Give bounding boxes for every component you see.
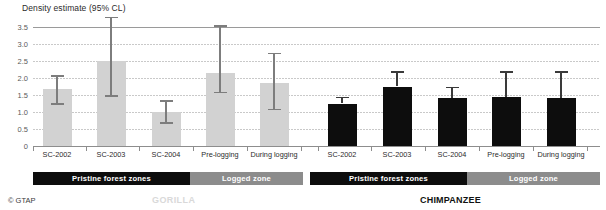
errorbar-line-8 bbox=[505, 71, 507, 97]
xtick-label-6: SC-2003 bbox=[367, 150, 427, 159]
errorbar-cap-low-0 bbox=[51, 103, 64, 105]
band-chimpanzee-logged: Logged zone bbox=[467, 172, 600, 185]
x-axis-line bbox=[33, 146, 600, 147]
copyright-label: © GTAP bbox=[8, 196, 35, 205]
errorbar-line-6 bbox=[396, 71, 398, 86]
errorbar-cap-high-5 bbox=[336, 97, 349, 99]
xtick-label-5: SC-2002 bbox=[312, 150, 372, 159]
errorbar-cap-high-0 bbox=[51, 75, 64, 77]
errorbar-cap-high-6 bbox=[391, 71, 404, 73]
bar-chimpanzee-pre-logging bbox=[492, 97, 521, 146]
bar-chimpanzee-sc-2004 bbox=[438, 98, 467, 146]
errorbar-cap-low-1 bbox=[105, 95, 118, 97]
xtick-label-2: SC-2004 bbox=[136, 150, 196, 159]
gorilla-group-label: GORILLA bbox=[152, 195, 195, 205]
errorbar-line-0 bbox=[56, 75, 58, 103]
band-chimpanzee-pristine: Pristine forest zones bbox=[310, 172, 467, 185]
gridline-3-5 bbox=[33, 27, 600, 28]
bar-chimpanzee-sc-2002 bbox=[328, 104, 357, 147]
ytick-label-0-5: 0.5 bbox=[0, 125, 28, 134]
errorbar-line-1 bbox=[110, 17, 112, 95]
xtick-label-4: During logging bbox=[244, 150, 304, 159]
gridline-3-0 bbox=[33, 44, 600, 45]
errorbar-cap-high-3 bbox=[214, 25, 227, 27]
ytick-label-1-5: 1.5 bbox=[0, 91, 28, 100]
xtick-label-7: SC-2004 bbox=[422, 150, 482, 159]
xtick-label-3: Pre-logging bbox=[190, 150, 250, 159]
density-estimate-chart: Density estimate (95% CL) 3.5 3.0 2.5 2.… bbox=[0, 0, 606, 210]
errorbar-line-7 bbox=[451, 87, 453, 99]
bar-chimpanzee-during-logging bbox=[547, 98, 576, 146]
errorbar-cap-high-1 bbox=[105, 17, 118, 19]
xtick-label-0: SC-2002 bbox=[27, 150, 87, 159]
errorbar-cap-high-8 bbox=[500, 71, 513, 73]
errorbar-line-3 bbox=[219, 25, 221, 91]
errorbar-cap-low-4 bbox=[268, 109, 281, 111]
errorbar-cap-high-9 bbox=[555, 71, 568, 73]
errorbar-cap-high-4 bbox=[268, 53, 281, 55]
errorbar-line-4 bbox=[273, 53, 275, 109]
ytick-label-0: 0 bbox=[0, 142, 28, 151]
ytick-label-3-0: 3.0 bbox=[0, 40, 28, 49]
ytick-label-2-5: 2.5 bbox=[0, 57, 28, 66]
xtick-label-1: SC-2003 bbox=[81, 150, 141, 159]
xtick-label-9: During logging bbox=[531, 150, 591, 159]
ytick-label-1-0: 1.0 bbox=[0, 108, 28, 117]
ytick-label-3-5: 3.5 bbox=[0, 23, 28, 32]
chart-axis-title: Density estimate (95% CL) bbox=[22, 3, 126, 13]
ytick-label-2-0: 2.0 bbox=[0, 74, 28, 83]
chimpanzee-group-label: CHIMPANZEE bbox=[420, 195, 481, 205]
bar-chimpanzee-sc-2003 bbox=[383, 87, 412, 147]
errorbar-cap-high-7 bbox=[446, 87, 459, 89]
errorbar-line-2 bbox=[165, 100, 167, 122]
errorbar-line-9 bbox=[560, 71, 562, 98]
errorbar-cap-high-2 bbox=[160, 100, 173, 102]
band-gorilla-logged: Logged zone bbox=[190, 172, 303, 185]
band-gorilla-pristine: Pristine forest zones bbox=[33, 172, 190, 185]
xtick-label-8: Pre-logging bbox=[476, 150, 536, 159]
errorbar-cap-low-3 bbox=[214, 92, 227, 94]
errorbar-cap-low-2 bbox=[160, 122, 173, 124]
